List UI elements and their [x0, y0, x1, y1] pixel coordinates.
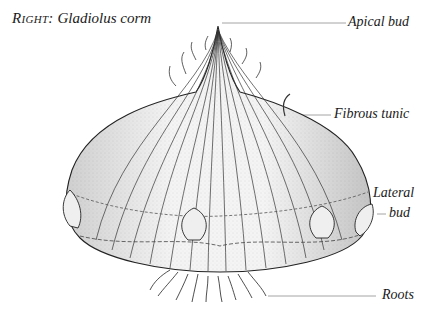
label-bud: bud — [389, 205, 410, 221]
gladiolus-corm-illustration — [0, 0, 442, 319]
label-lateral: Lateral — [373, 185, 414, 201]
roots — [150, 270, 266, 302]
label-fibrous-tunic: Fibrous tunic — [334, 106, 409, 122]
label-roots: Roots — [382, 287, 414, 303]
label-apical-bud: Apical bud — [348, 14, 409, 30]
